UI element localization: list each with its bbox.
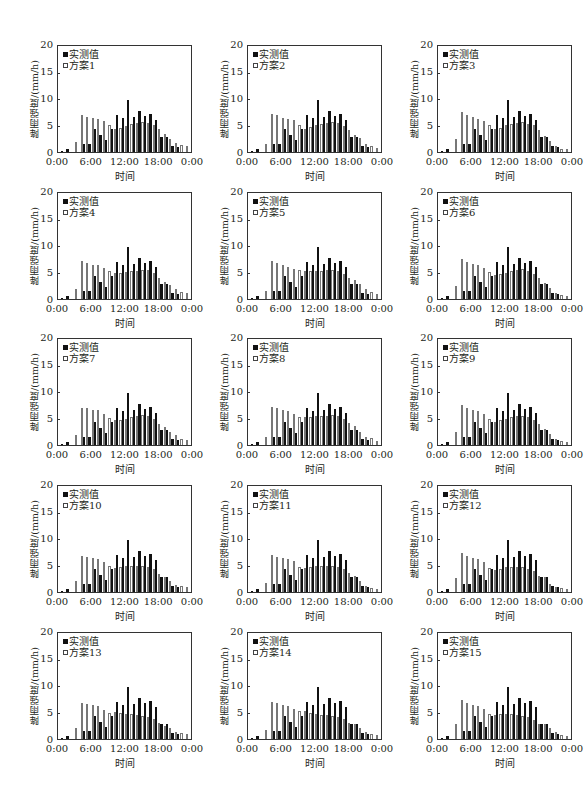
measured-bar [529,114,531,152]
measured-bar [474,129,476,152]
measured-bar [345,267,347,299]
legend: 实测值方案14 [253,636,292,658]
measured-bar [61,298,63,299]
x-tick-label: 18:00 [144,303,173,314]
y-tick-label: 5 [417,413,433,424]
scheme-bar [566,149,568,152]
y-tick-mark [57,513,60,514]
y-tick-label: 5 [417,560,433,571]
legend-item-scheme: 方案15 [443,647,482,658]
y-tick-mark [57,566,60,567]
legend: 实测值方案2 [253,49,289,71]
y-tick-label: 10 [37,680,53,691]
x-tick-label: 0:00 [236,156,258,167]
measured-bar [160,137,162,152]
y-tick-mark [247,366,250,367]
legend-label: 方案7 [69,353,95,364]
scheme-bar [370,588,372,592]
y-tick-label: 15 [227,506,243,517]
measured-bar [301,422,303,445]
y-tick-label: 5 [227,120,243,131]
y-tick-mark [57,392,60,393]
measured-bar [540,284,542,299]
measured-bar [116,555,118,592]
measured-bar [83,144,85,152]
measured-bar [256,149,258,152]
y-tick-label: 20 [37,332,53,343]
filled-square-icon [63,492,68,497]
x-tick-label: 0:00 [236,303,258,314]
measured-bar [356,284,358,299]
measured-bar [491,422,493,445]
measured-bar [289,428,291,445]
x-axis-label: 时间 [115,755,135,770]
measured-bar [278,291,280,299]
plot-area: 实测值方案12 [437,485,572,593]
measured-bar [171,586,173,592]
y-tick-mark [57,713,60,714]
x-tick-label: 18:00 [144,743,173,754]
measured-bar [441,738,443,739]
filled-square-icon [63,199,68,204]
x-tick-label: 0:00 [236,743,258,754]
measured-bar [284,276,286,299]
scheme-bar [180,292,182,299]
measured-bar [289,575,291,592]
measured-bar [171,733,173,739]
measured-bar [105,580,107,592]
measured-bar [111,129,113,152]
rainfall-chart-panel: 降雨强度/(mm/h)051015200:006:0012:0018:000:0… [220,328,410,478]
measured-bar [256,736,258,739]
empty-square-icon [253,210,258,215]
legend-item-scheme: 方案12 [443,500,482,511]
x-axis-label: 时间 [495,168,515,183]
measured-bar [301,276,303,299]
measured-bar [485,580,487,592]
y-tick-mark [247,273,250,274]
measured-bar [251,738,253,739]
legend-label: 实测值 [69,342,99,353]
x-axis-label: 时间 [495,461,515,476]
measured-bar [535,120,537,152]
measured-bar [535,560,537,592]
x-tick-label: 6:00 [270,449,292,460]
measured-bar [491,569,493,592]
y-tick-label: 10 [227,240,243,251]
x-tick-label: 12:00 [300,743,329,754]
rainfall-chart-panel: 降雨强度/(mm/h)051015200:006:0012:0018:000:0… [220,475,410,625]
measured-bar [535,413,537,445]
x-tick-label: 12:00 [300,596,329,607]
measured-bar [468,144,470,152]
y-tick-label: 5 [37,267,53,278]
plot-area: 实测值方案10 [57,485,192,593]
measured-bar [557,294,559,299]
measured-bar [149,114,151,152]
legend-label: 方案12 [449,500,482,511]
scheme-bar [370,292,372,299]
rainfall-chart-panel: 降雨强度/(mm/h)051015200:006:0012:0018:000:0… [220,622,410,772]
measured-bar [328,258,330,299]
scheme-bar [186,293,188,299]
measured-bar [138,551,140,592]
y-tick-mark [57,686,60,687]
x-tick-label: 6:00 [270,743,292,754]
measured-bar [441,591,443,592]
filled-square-icon [253,492,258,497]
measured-bar [446,736,448,739]
y-tick-mark [57,126,60,127]
x-tick-label: 12:00 [110,449,139,460]
x-tick-label: 12:00 [300,303,329,314]
empty-square-icon [63,650,68,655]
y-tick-mark [57,99,60,100]
x-tick-label: 18:00 [334,743,363,754]
y-tick-label: 15 [37,359,53,370]
measured-bar [491,276,493,299]
measured-bar [99,428,101,445]
x-tick-label: 12:00 [490,449,519,460]
measured-bar [138,698,140,739]
filled-square-icon [443,639,448,644]
plot-area: 实测值方案1 [57,45,192,153]
scheme-bar [186,146,188,152]
y-tick-label: 15 [37,506,53,517]
measured-bar [317,687,319,739]
